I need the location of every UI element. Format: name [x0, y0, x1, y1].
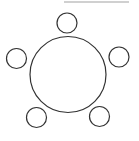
seat-circle-bottom-right	[90, 107, 110, 127]
seat-circle-right	[109, 47, 129, 67]
seat-circle-left	[7, 49, 27, 69]
seating-diagram	[0, 0, 139, 141]
table-circle	[30, 37, 106, 113]
seat-circle-bottom-left	[27, 108, 47, 128]
seat-circle-top	[57, 13, 77, 33]
